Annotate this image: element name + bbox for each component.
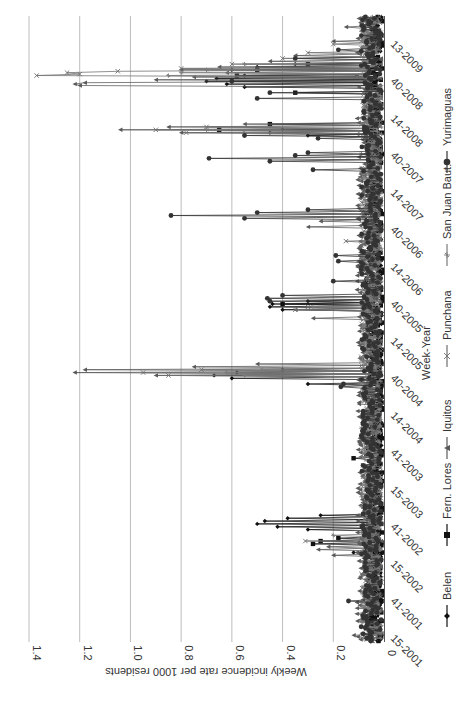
data-point-circle bbox=[368, 59, 373, 64]
data-point-circle bbox=[371, 342, 376, 347]
data-point-circle bbox=[373, 604, 378, 609]
data-point-circle bbox=[361, 631, 366, 636]
data-point-diamond bbox=[263, 519, 267, 523]
data-point-circle bbox=[373, 149, 378, 154]
data-point-circle bbox=[378, 172, 383, 177]
data-point-circle bbox=[367, 483, 372, 488]
data-point-circle bbox=[375, 417, 380, 422]
y-tick-label: 0.6 bbox=[234, 645, 246, 660]
data-point-circle bbox=[377, 497, 382, 502]
data-point-star bbox=[225, 370, 229, 374]
data-point-circle bbox=[364, 390, 369, 395]
data-point-circle bbox=[373, 196, 378, 201]
y-tick-label: 1.0 bbox=[132, 645, 144, 660]
y-tick-label: 1.2 bbox=[82, 645, 94, 660]
data-point-circle bbox=[369, 36, 374, 41]
data-point-circle bbox=[364, 354, 369, 359]
data-point-circle bbox=[365, 601, 370, 606]
data-point-square bbox=[380, 295, 384, 299]
data-point-circle bbox=[360, 272, 365, 277]
data-point-circle bbox=[373, 486, 378, 491]
legend-item: Iquitos bbox=[441, 399, 453, 459]
data-point-triangle bbox=[242, 122, 246, 126]
data-point-circle bbox=[371, 372, 376, 377]
data-point-diamond bbox=[230, 376, 234, 380]
legend: BelenFern. LoresIquitosPunchanaSan Juan … bbox=[441, 87, 453, 627]
data-point-circle bbox=[362, 386, 367, 391]
data-point-diamond bbox=[268, 305, 272, 309]
data-point-circle bbox=[359, 300, 364, 305]
data-point-circle bbox=[377, 329, 382, 334]
data-point-circle bbox=[360, 469, 365, 474]
data-point-circle bbox=[374, 322, 379, 327]
data-point-circle bbox=[365, 189, 370, 194]
data-point-diamond bbox=[306, 382, 310, 386]
data-point-star bbox=[166, 73, 170, 77]
data-point-circle bbox=[255, 210, 260, 215]
data-point-circle bbox=[375, 610, 380, 615]
data-point-diamond bbox=[280, 308, 284, 312]
data-point-triangle bbox=[354, 288, 358, 292]
data-point-circle bbox=[372, 233, 377, 238]
data-point-circle bbox=[373, 26, 378, 31]
data-point-diamond bbox=[275, 525, 279, 529]
data-point-circle bbox=[316, 136, 321, 141]
data-point-circle bbox=[362, 125, 367, 130]
data-point-triangle bbox=[351, 633, 355, 637]
data-point-circle bbox=[371, 43, 376, 48]
data-point-circle bbox=[366, 573, 371, 578]
data-point-circle bbox=[370, 436, 375, 441]
data-point-circle bbox=[242, 216, 247, 221]
data-point-triangle bbox=[355, 36, 359, 40]
data-point-circle bbox=[363, 503, 368, 508]
x-tick-label: 40-2006 bbox=[389, 224, 426, 261]
data-point-triangle bbox=[356, 340, 360, 344]
data-point-star bbox=[242, 373, 246, 377]
data-point-circle bbox=[267, 159, 272, 164]
data-point-triangle bbox=[311, 316, 315, 320]
data-point-triangle bbox=[356, 447, 360, 451]
data-point-circle bbox=[372, 424, 377, 429]
data-point-circle bbox=[374, 576, 379, 581]
data-point-circle bbox=[311, 167, 316, 172]
data-point-circle bbox=[378, 516, 383, 521]
data-point-circle bbox=[375, 393, 380, 398]
data-point-circle bbox=[293, 56, 298, 61]
data-point-diamond bbox=[318, 513, 322, 517]
data-point-square bbox=[306, 62, 310, 66]
data-point-triangle bbox=[268, 59, 272, 63]
series-fern-lores bbox=[217, 15, 385, 643]
series-iquitos bbox=[72, 15, 383, 643]
x-tick-label: 41-2001 bbox=[389, 595, 426, 632]
data-point-circle bbox=[378, 187, 383, 192]
legend-label: Belen bbox=[441, 572, 453, 600]
data-point-circle bbox=[367, 629, 372, 634]
data-point-circle bbox=[364, 39, 369, 44]
legend-item: Punchana bbox=[441, 290, 453, 367]
x-tick-label: 40-2008 bbox=[389, 75, 426, 112]
data-point-triangle bbox=[355, 273, 359, 277]
data-point-circle bbox=[336, 47, 341, 52]
x-tick-label: 14-2008 bbox=[389, 112, 426, 149]
data-point-square bbox=[444, 532, 450, 538]
data-point-circle bbox=[373, 57, 378, 62]
data-point-circle bbox=[366, 19, 371, 24]
data-point-circle bbox=[359, 193, 364, 198]
data-point-circle bbox=[377, 220, 382, 225]
data-point-circle bbox=[367, 540, 372, 545]
data-point-circle bbox=[369, 362, 374, 367]
legend-item: Fern. Lores bbox=[441, 462, 453, 546]
x-tick-label: 13-2009 bbox=[389, 38, 426, 75]
data-point-circle bbox=[365, 416, 370, 421]
data-point-triangle bbox=[72, 370, 76, 374]
data-point-circle bbox=[367, 466, 372, 471]
data-point-triangle bbox=[357, 329, 361, 333]
data-point-circle bbox=[368, 92, 373, 97]
data-point-triangle bbox=[358, 566, 362, 570]
data-point-circle bbox=[372, 507, 377, 512]
data-point-circle bbox=[374, 307, 379, 312]
data-point-circle bbox=[379, 227, 384, 232]
data-point-circle bbox=[346, 599, 351, 604]
data-point-circle bbox=[366, 157, 371, 162]
data-point-star bbox=[359, 318, 363, 322]
